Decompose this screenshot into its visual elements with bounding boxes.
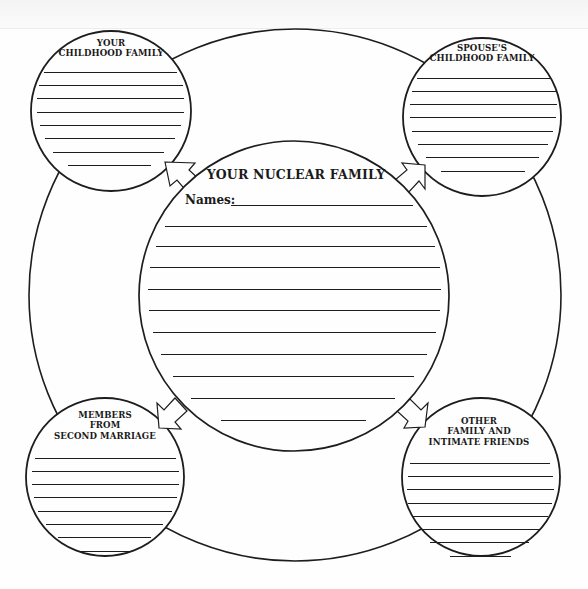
blank-line[interactable] xyxy=(410,117,556,118)
blank-line[interactable] xyxy=(430,542,529,543)
blank-line[interactable] xyxy=(32,471,179,472)
title-line: INTIMATE FRIENDS xyxy=(429,437,530,447)
blank-line[interactable] xyxy=(150,267,440,268)
blank-line[interactable] xyxy=(35,458,176,459)
blank-line[interactable] xyxy=(37,112,184,113)
blank-line[interactable] xyxy=(412,516,548,517)
blank-line[interactable] xyxy=(156,246,435,247)
title-line: SECOND MARRIAGE xyxy=(54,431,156,441)
blank-line[interactable] xyxy=(412,131,553,132)
blank-line[interactable] xyxy=(161,354,427,355)
blank-line[interactable] xyxy=(38,511,172,512)
circle-your-nuclear-family xyxy=(139,141,449,451)
blank-line[interactable] xyxy=(53,152,164,153)
blank-line[interactable] xyxy=(37,98,184,99)
blank-line[interactable] xyxy=(46,524,163,525)
blank-line[interactable] xyxy=(410,463,550,464)
title-line: FAMILY AND xyxy=(429,426,530,436)
names-label: Names: xyxy=(185,193,235,207)
other-family-and-intimate-friends-title: OTHER FAMILY AND INTIMATE FRIENDS xyxy=(429,416,530,447)
blank-line[interactable] xyxy=(80,551,129,552)
blank-line[interactable] xyxy=(410,104,557,105)
blank-line[interactable] xyxy=(149,310,440,311)
blank-line[interactable] xyxy=(39,85,183,86)
blank-line[interactable] xyxy=(173,376,414,377)
title-line: SPOUSE'S xyxy=(429,43,534,53)
spouses-childhood-family-title: SPOUSE'S CHILDHOOD FAMILY xyxy=(429,43,534,64)
blank-line[interactable] xyxy=(408,503,552,504)
blank-line[interactable] xyxy=(441,171,525,172)
family-circles-worksheet: YOUR CHILDHOOD FAMILY SPOUSE'S CHILDHOOD… xyxy=(0,0,588,589)
blank-line[interactable] xyxy=(68,165,151,166)
blank-line[interactable] xyxy=(148,289,441,290)
blank-line[interactable] xyxy=(32,484,179,485)
title-line: CHILDHOOD FAMILY xyxy=(429,53,534,63)
your-childhood-family-title: YOUR CHILDHOOD FAMILY xyxy=(58,38,163,59)
blank-line[interactable] xyxy=(407,489,554,490)
blank-line[interactable] xyxy=(44,72,177,73)
blank-line[interactable] xyxy=(418,144,548,145)
blank-line[interactable] xyxy=(191,398,395,399)
names-input-line[interactable] xyxy=(231,205,413,206)
blank-line[interactable] xyxy=(165,226,427,227)
blank-line[interactable] xyxy=(45,138,175,139)
blank-line[interactable] xyxy=(58,537,151,538)
members-from-second-marriage-title: MEMBERS FROM SECOND MARRIAGE xyxy=(54,410,156,441)
blank-line[interactable] xyxy=(34,497,177,498)
blank-line[interactable] xyxy=(450,556,511,557)
blank-line[interactable] xyxy=(417,78,550,79)
title-line: CHILDHOOD FAMILY xyxy=(58,48,163,58)
blank-line[interactable] xyxy=(221,420,366,421)
blank-line[interactable] xyxy=(408,476,553,477)
title-line: FROM xyxy=(54,420,156,430)
your-nuclear-family-title: YOUR NUCLEAR FAMILY xyxy=(207,167,386,182)
title-line: YOUR NUCLEAR FAMILY xyxy=(207,167,386,182)
blank-line[interactable] xyxy=(412,91,556,92)
title-line: MEMBERS xyxy=(54,410,156,420)
title-line: OTHER xyxy=(429,416,530,426)
blank-line[interactable] xyxy=(426,157,539,158)
diagram-shapes xyxy=(0,0,588,589)
blank-line[interactable] xyxy=(40,125,181,126)
blank-line[interactable] xyxy=(419,529,540,530)
blank-line[interactable] xyxy=(153,332,436,333)
title-line: YOUR xyxy=(58,38,163,48)
